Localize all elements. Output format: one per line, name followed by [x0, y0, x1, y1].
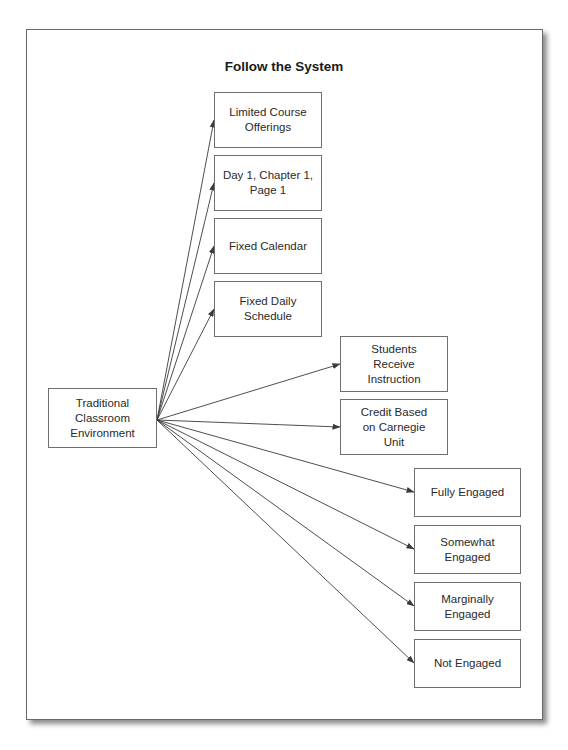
edge-day1-chapter1-page1 — [157, 183, 214, 420]
node-day1-chapter1-page1: Day 1, Chapter 1, Page 1 — [214, 155, 322, 211]
node-not-engaged: Not Engaged — [414, 639, 521, 688]
node-traditional-classroom-environment: Traditional Classroom Environment — [48, 388, 157, 448]
node-fully-engaged: Fully Engaged — [414, 468, 521, 517]
node-credit-based-carnegie: Credit Based on Carnegie Unit — [340, 399, 448, 455]
edge-fixed-daily-schedule — [157, 309, 214, 420]
edge-credit-based-carnegie — [157, 420, 340, 427]
node-limited-course-offerings: Limited Course Offerings — [214, 92, 322, 148]
node-somewhat-engaged: Somewhat Engaged — [414, 525, 521, 574]
node-fixed-calendar: Fixed Calendar — [214, 218, 322, 274]
node-fixed-daily-schedule: Fixed Daily Schedule — [214, 281, 322, 337]
edge-limited-course-offerings — [157, 120, 214, 420]
node-marginally-engaged: Marginally Engaged — [414, 582, 521, 631]
node-students-receive-instruction: Students Receive Instruction — [340, 336, 448, 392]
edge-students-receive-instruction — [157, 364, 340, 420]
